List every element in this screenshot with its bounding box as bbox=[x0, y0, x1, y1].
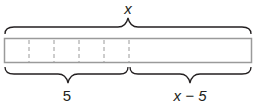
bottom-left-brace bbox=[5, 67, 128, 83]
top-label: x bbox=[123, 0, 132, 17]
tape-diagram: x 5 x − 5 bbox=[0, 0, 258, 108]
bottom-left-label: 5 bbox=[63, 87, 71, 104]
tape-bar bbox=[5, 39, 252, 63]
bottom-right-label: x − 5 bbox=[173, 87, 208, 104]
top-brace bbox=[5, 18, 251, 34]
bottom-right-brace bbox=[130, 67, 251, 83]
